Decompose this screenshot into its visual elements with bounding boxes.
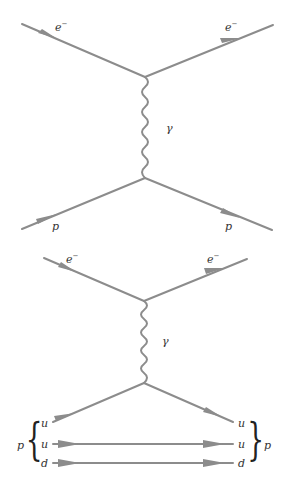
label-e-in: e− (66, 252, 79, 266)
arrow-icon (58, 459, 80, 467)
label-quark-right-2: u (238, 438, 245, 451)
label-quark-left-3: d (41, 457, 48, 470)
diagram-electron-quark: e− e− γ p { u u d u u d } p (17, 252, 271, 470)
label-e-in: e− (55, 20, 68, 34)
arrow-icon (54, 413, 75, 421)
label-quark-left-1: u (41, 417, 48, 430)
outgoing-proton-line (145, 178, 272, 230)
label-gamma: γ (166, 122, 173, 135)
label-e-out: e− (207, 252, 220, 266)
label-e-out: e− (225, 20, 238, 34)
right-brace: } (247, 414, 264, 466)
label-quark-right-3: d (238, 457, 245, 470)
label-quark-left-2: u (41, 438, 48, 451)
label-proton-left: p (17, 439, 24, 452)
arrow-icon (203, 407, 222, 417)
arrow-icon (203, 440, 225, 448)
outgoing-electron-line (144, 259, 247, 301)
diagram-electron-proton: e− e− γ p p (22, 20, 273, 233)
incoming-electron-line (44, 258, 144, 301)
arrow-icon (203, 459, 225, 467)
outgoing-electron-line (145, 25, 273, 77)
label-gamma: γ (162, 335, 169, 348)
label-p-out: p (225, 220, 232, 233)
label-proton-right: p (264, 439, 271, 452)
feynman-diagrams: e− e− γ p p e− e− γ p { u u d u u d } (0, 0, 282, 483)
label-p-in: p (52, 220, 59, 233)
arrow-icon (58, 440, 80, 448)
photon-propagator (142, 77, 148, 178)
arrow-icon (220, 208, 240, 218)
label-quark-right-1: u (238, 417, 245, 430)
photon-propagator (141, 301, 147, 383)
arrow-icon (38, 29, 56, 38)
